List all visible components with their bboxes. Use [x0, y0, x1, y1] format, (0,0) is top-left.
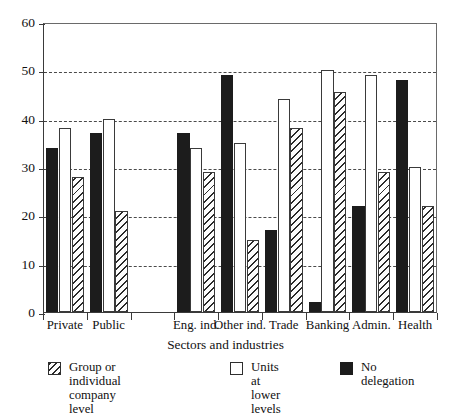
y-tick-label: 60 — [0, 16, 35, 30]
bar — [221, 75, 233, 312]
bar — [234, 143, 246, 312]
bar — [290, 128, 302, 312]
chart-legend: Group or individual company levelUnits a… — [0, 360, 451, 396]
y-tick-mark — [39, 314, 45, 315]
bar — [115, 211, 127, 313]
bar — [103, 119, 115, 312]
y-tick-label: 0 — [0, 306, 35, 320]
bar — [190, 148, 202, 312]
legend-label: Group or individual company level — [69, 360, 121, 416]
bar — [203, 172, 215, 312]
bar — [247, 240, 259, 313]
bars-layer — [44, 24, 436, 312]
bar — [352, 206, 364, 312]
bar — [378, 172, 390, 312]
bar — [72, 177, 84, 312]
y-tick-label: 50 — [0, 64, 35, 78]
bar — [396, 80, 408, 312]
bar — [321, 70, 333, 312]
bar — [309, 302, 321, 312]
legend-label: Units at lower levels — [251, 360, 281, 416]
bar — [265, 230, 277, 312]
bar — [90, 133, 102, 312]
x-tick-label: Health — [369, 319, 451, 332]
legend-swatch-white — [230, 362, 243, 375]
bar — [409, 167, 421, 312]
y-tick-label: 40 — [0, 113, 35, 127]
bar — [422, 206, 434, 312]
bar — [334, 92, 346, 312]
plot-area — [43, 23, 437, 313]
bar — [46, 148, 58, 312]
bar — [365, 75, 377, 312]
bar — [59, 128, 71, 312]
legend-swatch-black — [340, 362, 353, 375]
legend-swatch-hatched — [48, 362, 61, 375]
x-axis-title: Sectors and industries — [0, 337, 451, 353]
bar — [278, 99, 290, 312]
bar — [177, 133, 189, 312]
x-tick-label: Public — [63, 319, 155, 332]
legend-label: No delegation — [361, 360, 414, 388]
y-tick-label: 20 — [0, 209, 35, 223]
y-tick-label: 10 — [0, 258, 35, 272]
y-tick-label: 30 — [0, 161, 35, 175]
